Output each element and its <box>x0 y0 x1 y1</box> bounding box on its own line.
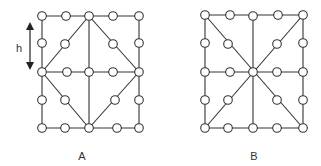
dimension-label-h: h <box>16 42 22 54</box>
mesh-node <box>38 96 47 105</box>
mesh-node <box>38 12 47 21</box>
mesh-node <box>299 68 308 77</box>
mesh-node <box>273 96 282 105</box>
mesh-node <box>85 124 94 133</box>
mesh-node <box>249 68 258 77</box>
mesh-node <box>63 68 72 77</box>
mesh-node <box>62 12 71 21</box>
mesh-node <box>201 96 210 105</box>
mesh-node <box>135 96 144 105</box>
h-dimension-arrow: h <box>16 22 34 70</box>
mesh-node <box>201 124 210 133</box>
mesh-node <box>224 40 233 49</box>
diagram-a-label: A <box>78 150 86 162</box>
mesh-node <box>113 124 122 133</box>
mesh-node <box>109 68 118 77</box>
mesh-node <box>109 12 118 21</box>
mesh-diagrams: h A B <box>0 0 321 166</box>
mesh-node <box>85 68 94 77</box>
mesh-node <box>201 11 210 20</box>
mesh-node <box>299 11 308 20</box>
mesh-node <box>299 39 308 48</box>
mesh-node <box>109 40 118 49</box>
mesh-node <box>224 96 233 105</box>
mesh-node <box>226 11 235 20</box>
mesh-node <box>273 68 282 77</box>
mesh-node <box>299 124 308 133</box>
mesh-node <box>85 12 94 21</box>
mesh-node <box>135 12 144 21</box>
arrow-down-icon <box>26 62 34 70</box>
mesh-node <box>38 39 47 48</box>
mesh-node <box>135 68 144 77</box>
mesh-node <box>249 12 258 21</box>
mesh-node <box>61 124 70 133</box>
mesh-node <box>226 68 235 77</box>
mesh-node <box>38 68 47 77</box>
diagram-b-label: B <box>250 150 257 162</box>
mesh-node <box>274 11 283 20</box>
mesh-node <box>61 40 70 49</box>
mesh-node <box>201 39 210 48</box>
mesh-node <box>61 96 70 105</box>
mesh-node <box>273 124 282 133</box>
mesh-node <box>273 40 282 49</box>
mesh-node <box>135 124 144 133</box>
mesh-node <box>111 96 120 105</box>
mesh-node <box>201 68 210 77</box>
mesh-node <box>38 124 47 133</box>
mesh-node <box>224 124 233 133</box>
mesh-node <box>299 96 308 105</box>
mesh-node <box>249 124 258 133</box>
arrow-up-icon <box>26 22 34 30</box>
mesh-node <box>135 39 144 48</box>
